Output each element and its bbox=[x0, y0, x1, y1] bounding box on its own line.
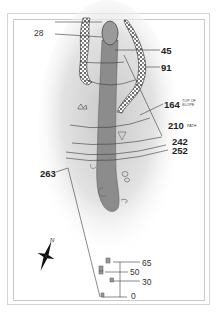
tee-yardage-50: 50 bbox=[130, 268, 139, 277]
compass-rose-icon bbox=[37, 240, 55, 271]
yardage-164: 164 bbox=[164, 100, 180, 110]
yardage-164-note: TOP OF SLOPE bbox=[182, 99, 200, 107]
compass-north-label: N bbox=[50, 237, 54, 243]
tee-box-65 bbox=[106, 258, 110, 263]
yardage-210: 210 bbox=[168, 121, 184, 131]
yardage-91: 91 bbox=[161, 63, 172, 73]
tee-box-50 bbox=[99, 266, 103, 271]
tee-box-50b bbox=[99, 271, 103, 274]
green-marker-label: 28 bbox=[34, 29, 43, 38]
tee-yardage-30: 30 bbox=[142, 278, 151, 287]
tee-yardage-65: 65 bbox=[142, 259, 151, 268]
yardage-263: 263 bbox=[40, 169, 56, 179]
tee-box-30 bbox=[110, 278, 114, 282]
yardage-45: 45 bbox=[161, 46, 172, 56]
yardage-210-note: PATH bbox=[187, 124, 196, 128]
tee-yardage-0: 0 bbox=[131, 292, 136, 301]
yardage-252: 252 bbox=[172, 146, 188, 156]
tee-box-0 bbox=[101, 293, 104, 297]
green bbox=[102, 21, 118, 45]
hole-layout-map bbox=[0, 0, 219, 316]
